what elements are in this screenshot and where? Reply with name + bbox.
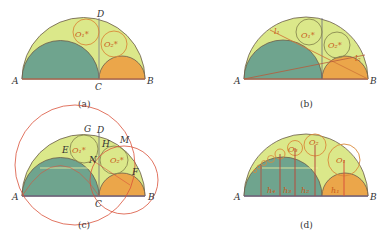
caption-c: (c) (78, 220, 90, 230)
label-point-n: N (88, 155, 98, 165)
arbelos-figure: O₁* O₂* A B C D (a) O₁* O₂* l₁ l₂ A B (b… (0, 0, 379, 240)
label-o2-star: O₂* (110, 156, 124, 165)
label-h4: h₄ (267, 186, 275, 195)
panel-a: O₁* O₂* A B C D (a) (11, 9, 154, 109)
label-point-f: F (131, 167, 139, 177)
label-o1: O₁ (336, 156, 346, 165)
panel-b: O₁* O₂* l₁ l₂ A B (b) (233, 17, 377, 109)
label-h3: h₃ (283, 186, 291, 195)
label-point-a: A (11, 76, 19, 86)
label-o1-star: O₁* (301, 31, 315, 40)
label-point-b: B (147, 192, 155, 202)
label-point-b: B (369, 192, 377, 202)
label-point-a: A (233, 76, 241, 86)
label-point-c: C (95, 199, 102, 209)
caption-d: (d) (300, 220, 313, 230)
label-o1-star: O₁* (75, 30, 89, 39)
label-o2: O₂ (309, 138, 319, 147)
label-point-d: D (96, 125, 104, 135)
label-line-l2: l₂ (355, 54, 361, 63)
label-point-a: A (233, 192, 241, 202)
panel-d: O₁ O₂ O₃ h₄ h₃ h₂ h₁ A B (d) (233, 134, 377, 230)
label-o2-star: O₂* (104, 40, 118, 49)
label-line-l1: l₁ (274, 27, 280, 36)
label-point-b: B (146, 76, 154, 86)
caption-a: (a) (78, 99, 90, 109)
label-point-b: B (369, 76, 377, 86)
label-point-h: H (101, 139, 110, 149)
label-h2: h₂ (301, 186, 309, 195)
label-o2-star: O₂* (328, 41, 342, 50)
label-point-c: C (95, 82, 102, 92)
label-o1-star: O₁* (72, 146, 86, 155)
caption-b: (b) (300, 99, 313, 109)
label-point-g: G (84, 124, 91, 134)
label-h1: h₁ (331, 186, 339, 195)
panel-c: O₁* O₂* G D H M E N F A B C (c) (11, 105, 158, 230)
label-point-d: D (96, 9, 104, 19)
label-point-m: M (119, 135, 130, 145)
label-point-e: E (61, 145, 69, 155)
label-point-a: A (11, 192, 19, 202)
label-o3: O₃ (288, 145, 298, 154)
